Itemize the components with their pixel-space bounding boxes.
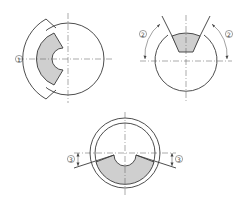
diagram-canvas: 1 2 2 [0,0,250,208]
view-2-label-left: 2 [141,31,145,38]
view-3-label-right: 3 [177,156,181,163]
view-1: 1 [15,13,114,103]
view-2-label-right: 2 [227,31,231,38]
view-2-angle-arc-right [212,24,227,59]
view-1-label: 1 [17,56,21,63]
view-2: 2 2 [139,15,232,102]
view-3: 3 3 [67,112,182,196]
view-3-label-left: 3 [69,156,73,163]
view-2-angle-arc-left [145,24,160,59]
